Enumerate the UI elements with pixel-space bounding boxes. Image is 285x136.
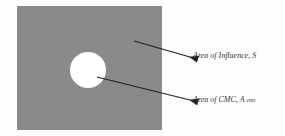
diagram-graphic — [0, 0, 285, 136]
diagram-canvas: Area of Influence, S Area of CMC, A cmc — [0, 0, 285, 136]
cmc-label-text: Area of CMC, A — [193, 95, 244, 104]
cmc-circle — [70, 52, 106, 88]
influence-label: Area of Influence, S — [193, 51, 256, 60]
cmc-label: Area of CMC, A cmc — [193, 95, 256, 104]
cmc-label-subscript: cmc — [246, 97, 256, 103]
